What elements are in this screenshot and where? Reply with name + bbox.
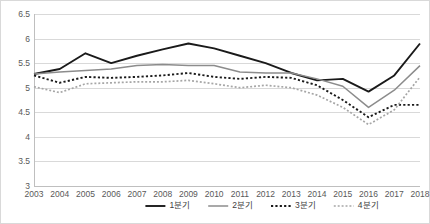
x-tick-label: 2003 [25, 189, 44, 199]
x-tick-label: 2010 [205, 189, 224, 199]
y-tick-label: 6 [25, 34, 30, 44]
legend-label: 1분기 [169, 200, 190, 210]
x-tick-label: 2006 [102, 189, 121, 199]
x-tick-label: 2017 [385, 189, 404, 199]
x-tick-label: 2012 [256, 189, 275, 199]
y-tick-label: 5.5 [18, 58, 30, 68]
x-tick-label: 2011 [231, 189, 250, 199]
x-tick-label: 2009 [179, 189, 198, 199]
legend-label: 3분기 [295, 200, 316, 210]
gridlines-group [34, 14, 420, 187]
y-tick-label: 4.5 [18, 107, 30, 117]
chart-container: 33.544.555.566.5 20032004200520062007200… [0, 0, 430, 224]
y-tick-label: 3.5 [18, 156, 30, 166]
line-chart: 33.544.555.566.5 20032004200520062007200… [1, 1, 430, 224]
legend-label: 2분기 [232, 200, 253, 210]
y-tick-label: 4 [25, 132, 30, 142]
x-tick-label: 2007 [127, 189, 146, 199]
y-tick-label: 5 [25, 83, 30, 93]
x-tick-label: 2008 [153, 189, 172, 199]
x-tick-label: 2016 [359, 189, 378, 199]
x-tick-label: 2013 [282, 189, 301, 199]
y-tick-label: 6.5 [18, 9, 30, 19]
x-tick-label: 2004 [50, 189, 69, 199]
x-tick-label: 2014 [308, 189, 327, 199]
series-line [34, 73, 420, 117]
x-tick-label: 2018 [411, 189, 430, 199]
series-line [34, 43, 420, 91]
series-line [34, 77, 420, 125]
chart-legend: 1분기2분기3분기4분기 [145, 200, 378, 210]
y-axis-tick-labels: 33.544.555.566.5 [18, 9, 30, 191]
x-tick-label: 2005 [76, 189, 95, 199]
x-tick-label: 2015 [333, 189, 352, 199]
x-axis-tick-labels: 2003200420052006200720082009201020112012… [25, 189, 430, 199]
legend-label: 4분기 [358, 200, 379, 210]
